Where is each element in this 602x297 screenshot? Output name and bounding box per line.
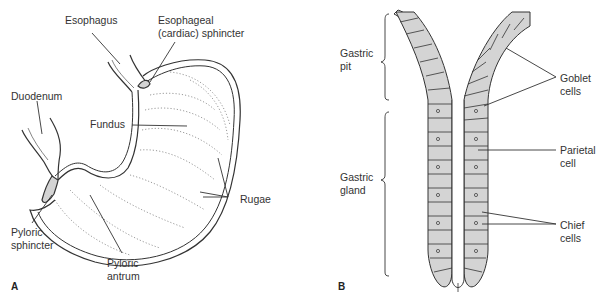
label-esophageal-sphincter-line2: (cardiac) sphincter bbox=[158, 27, 244, 40]
stomach-drawing bbox=[22, 55, 240, 266]
gastric-gland-drawing bbox=[394, 10, 530, 292]
label-chief-cells-line1: Chief bbox=[560, 219, 585, 232]
panel-letter-a: A bbox=[11, 281, 18, 292]
label-pyloric-sphincter-line2: sphincter bbox=[11, 239, 54, 252]
label-gastric-gland-line1: Gastric bbox=[340, 171, 373, 184]
stomach-and-gastric-gland-illustration bbox=[0, 0, 602, 297]
label-parietal-cell-line2: cell bbox=[560, 157, 576, 170]
label-gastric-gland-line2: gland bbox=[340, 184, 366, 197]
label-fundus: Fundus bbox=[90, 118, 125, 131]
label-parietal-cell-line1: Parietal bbox=[560, 144, 596, 157]
label-goblet-cells-line1: Goblet bbox=[560, 72, 591, 85]
label-pyloric-sphincter-line1: Pyloric bbox=[11, 226, 43, 239]
label-gastric-pit-line1: Gastric bbox=[340, 47, 373, 60]
label-pyloric-antrum-line1: Pyloric bbox=[107, 257, 139, 270]
label-rugae: Rugae bbox=[240, 193, 271, 206]
label-chief-cells-line2: cells bbox=[560, 232, 581, 245]
label-esophagus: Esophagus bbox=[65, 14, 118, 27]
panel-letter-b: B bbox=[338, 281, 345, 292]
label-pyloric-antrum-line2: antrum bbox=[107, 270, 140, 283]
label-gastric-pit-line2: pit bbox=[340, 60, 351, 73]
label-esophageal-sphincter-line1: Esophageal bbox=[158, 14, 213, 27]
label-goblet-cells-line2: cells bbox=[560, 85, 581, 98]
label-duodenum: Duodenum bbox=[11, 90, 62, 103]
